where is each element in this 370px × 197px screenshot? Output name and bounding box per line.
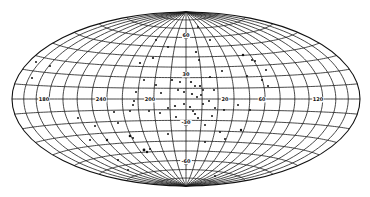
source-point (246, 75, 248, 77)
source-point (132, 137, 134, 139)
source-point (132, 104, 134, 106)
all-sky-map: 1802402002060120 6030-30-60 (0, 0, 370, 197)
source-point (208, 100, 210, 102)
source-point (152, 57, 154, 59)
source-point (117, 122, 119, 124)
source-point (202, 89, 204, 91)
source-point (146, 151, 148, 153)
source-point (177, 89, 179, 91)
source-point (133, 100, 135, 102)
source-point (254, 60, 256, 62)
source-point (240, 129, 242, 131)
longitude-label: 200 (145, 96, 156, 102)
latitude-label: 60 (183, 32, 190, 38)
source-point (197, 26, 199, 28)
source-point (94, 125, 96, 127)
source-point (135, 91, 137, 93)
source-point (199, 85, 201, 87)
source-point (139, 62, 141, 64)
longitude-label: 180 (39, 96, 50, 102)
source-point (155, 39, 157, 41)
source-point (214, 175, 216, 177)
source-point (261, 79, 263, 81)
source-point (35, 61, 37, 63)
source-point (167, 46, 169, 48)
source-point (195, 51, 197, 53)
source-point (148, 110, 150, 112)
source-point (31, 77, 33, 79)
latitude-label: 30 (183, 71, 190, 77)
latitude-label: -30 (181, 119, 191, 125)
source-point (237, 104, 239, 106)
source-point (192, 110, 194, 112)
source-point (155, 84, 157, 86)
source-point (189, 106, 191, 108)
source-point (249, 109, 251, 111)
source-point (211, 115, 213, 117)
source-point (197, 117, 199, 119)
source-point (213, 89, 215, 91)
source-point (171, 79, 173, 81)
source-point (159, 112, 161, 114)
source-point (204, 141, 206, 143)
source-point (117, 159, 119, 161)
source-point (202, 103, 204, 105)
source-point (77, 117, 79, 119)
source-point (143, 149, 146, 152)
source-point (242, 54, 244, 56)
source-point (129, 135, 132, 138)
latitude-label: -60 (181, 158, 191, 164)
source-point (209, 39, 211, 41)
source-point (224, 138, 226, 140)
source-point (129, 110, 131, 112)
source-point (221, 70, 223, 72)
source-point (219, 131, 221, 133)
source-point (194, 113, 196, 115)
source-point (89, 139, 91, 141)
source-point (209, 76, 211, 78)
source-point (127, 169, 129, 171)
source-point (160, 92, 162, 94)
source-point (174, 105, 176, 107)
source-point (183, 91, 185, 93)
source-point (167, 107, 169, 109)
longitude-label: 20 (222, 96, 229, 102)
source-point (191, 93, 193, 95)
source-point (49, 65, 51, 67)
longitude-label: 120 (313, 96, 324, 102)
source-point (200, 94, 202, 96)
source-point (149, 148, 151, 150)
source-point (198, 59, 200, 61)
source-point (214, 107, 216, 109)
source-point (167, 133, 169, 135)
source-point (143, 79, 145, 81)
source-point (194, 85, 196, 87)
longitude-label: 240 (96, 96, 107, 102)
source-point (183, 103, 185, 105)
source-point (190, 81, 192, 83)
source-point (251, 59, 253, 61)
source-point (204, 124, 206, 126)
source-point (179, 81, 181, 83)
source-point (196, 96, 198, 98)
longitude-label: 60 (259, 96, 266, 102)
source-point (175, 116, 177, 118)
source-point (265, 69, 267, 71)
source-point (106, 139, 108, 141)
source-point (223, 109, 225, 111)
source-point (113, 111, 115, 113)
source-point (267, 85, 269, 87)
